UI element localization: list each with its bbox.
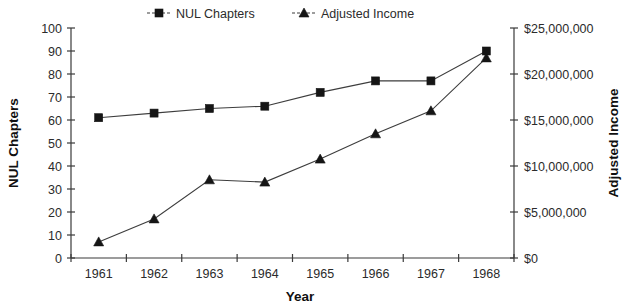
- data-point-marker: [315, 154, 325, 163]
- right-tick-label: $25,000,000: [524, 22, 594, 36]
- right-tick-label: $5,000,000: [524, 206, 587, 220]
- right-tick-label: $0: [524, 252, 538, 266]
- data-series-group: [94, 47, 492, 246]
- legend-label: NUL Chapters: [176, 7, 255, 21]
- chart-legend: NUL ChaptersAdjusted Income: [147, 7, 414, 21]
- right-tick-label: $10,000,000: [524, 160, 594, 174]
- left-axis-title: NUL Chapters: [6, 98, 21, 188]
- left-tick-label: 20: [48, 206, 62, 220]
- legend-item-2[interactable]: Adjusted Income: [292, 7, 414, 21]
- right-axis-title: Adjusted Income: [606, 88, 621, 197]
- data-point-marker: [205, 105, 213, 113]
- right-tick-label: $15,000,000: [524, 114, 594, 128]
- data-point-marker: [316, 88, 324, 96]
- data-point-marker: [371, 129, 381, 138]
- left-tick-label: 60: [48, 114, 62, 128]
- data-point-marker: [94, 237, 104, 246]
- left-tick-label: 40: [48, 160, 62, 174]
- data-point-marker: [372, 77, 380, 85]
- line-chart: 0102030405060708090100 $0$5,000,000$10,0…: [0, 0, 630, 307]
- right-tick-label: $20,000,000: [524, 68, 594, 82]
- data-point-marker: [427, 77, 435, 85]
- x-tick-label: 1963: [196, 267, 224, 281]
- x-tick-label: 1961: [85, 267, 113, 281]
- left-tick-label: 30: [48, 183, 62, 197]
- x-tick-label: 1966: [362, 267, 390, 281]
- data-point-marker: [95, 114, 103, 122]
- square-marker-icon: [155, 9, 163, 17]
- data-point-marker: [261, 102, 269, 110]
- axes-group: [71, 28, 514, 258]
- left-tick-label: 100: [41, 22, 62, 36]
- chart-container: 0102030405060708090100 $0$5,000,000$10,0…: [0, 0, 630, 307]
- right-axis-tick-labels: $0$5,000,000$10,000,000$15,000,000$20,00…: [524, 22, 594, 266]
- legend-item-1[interactable]: NUL Chapters: [147, 7, 255, 21]
- left-tick-label: 0: [55, 252, 62, 266]
- left-tick-label: 10: [48, 229, 62, 243]
- left-tick-label: 80: [48, 68, 62, 82]
- x-axis-title: Year: [286, 289, 315, 304]
- left-tick-label: 50: [48, 137, 62, 151]
- series-line: [99, 58, 487, 242]
- x-axis-tick-labels: 19611962196319641965196619671968: [85, 267, 500, 281]
- x-tick-label: 1964: [251, 267, 279, 281]
- legend-label: Adjusted Income: [321, 7, 414, 21]
- x-tick-label: 1968: [472, 267, 500, 281]
- x-tick-label: 1967: [417, 267, 445, 281]
- x-tick-label: 1962: [140, 267, 168, 281]
- left-tick-label: 90: [48, 45, 62, 59]
- data-point-marker: [149, 214, 159, 223]
- left-tick-label: 70: [48, 91, 62, 105]
- left-axis-tick-labels: 0102030405060708090100: [41, 22, 62, 266]
- data-point-marker: [204, 175, 214, 184]
- x-tick-label: 1965: [306, 267, 334, 281]
- data-point-marker: [150, 109, 158, 117]
